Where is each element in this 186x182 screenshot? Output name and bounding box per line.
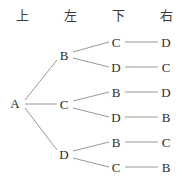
tree-node-l3-4: B	[158, 111, 174, 125]
tree-node-l1-c: C	[56, 98, 72, 112]
tree-node-l3-6: B	[158, 161, 174, 175]
tree-node-l3-5: C	[158, 136, 174, 150]
tree-edge	[73, 92, 109, 101]
tree-edge	[25, 60, 57, 100]
tree-node-root: A	[7, 97, 23, 111]
tree-diagram-canvas: 上左下右 ABCDCDBDBCDCDBCB	[0, 0, 186, 182]
tree-edge	[73, 158, 109, 167]
tree-node-l2-6: C	[108, 161, 124, 175]
tree-node-l2-3: B	[108, 86, 124, 100]
tree-edge	[73, 108, 109, 117]
column-header: 右	[154, 9, 178, 23]
tree-edge	[73, 142, 109, 151]
column-header: 下	[106, 9, 130, 23]
tree-node-l1-b: B	[56, 49, 72, 63]
column-header: 上	[10, 9, 34, 23]
tree-node-l2-1: C	[108, 36, 124, 50]
column-header: 左	[58, 9, 82, 23]
tree-node-l2-2: D	[108, 61, 124, 75]
tree-node-l1-d: D	[56, 148, 72, 162]
tree-node-l2-4: D	[108, 111, 124, 125]
tree-edge	[25, 108, 57, 150]
tree-node-l3-3: D	[158, 86, 174, 100]
tree-node-l2-5: B	[108, 136, 124, 150]
tree-node-l3-1: D	[158, 36, 174, 50]
tree-edge	[73, 58, 109, 67]
tree-node-l3-2: C	[158, 61, 174, 75]
tree-edge	[73, 42, 109, 52]
